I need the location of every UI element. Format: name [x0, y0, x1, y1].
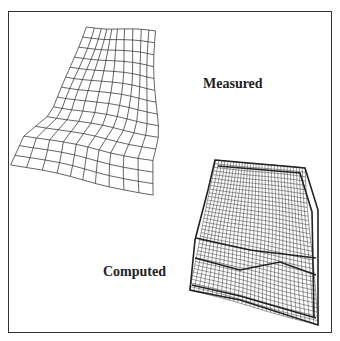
computed-label: Computed	[103, 264, 166, 280]
measured-label: Measured	[203, 76, 263, 92]
measured-mesh	[11, 27, 159, 195]
mesh-figure	[0, 0, 340, 341]
computed-mesh	[190, 160, 319, 325]
